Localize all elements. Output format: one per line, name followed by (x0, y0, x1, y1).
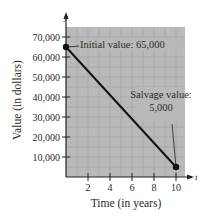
salvage-value-annotation-line1: Salvage value: (130, 89, 192, 100)
x-tick-label: 4 (108, 182, 113, 193)
x-tick-label: 2 (86, 182, 91, 193)
x-axis-label: Time (in years) (91, 197, 162, 210)
y-tick-label: 40,000 (33, 92, 61, 103)
x-axis-variable: t (195, 172, 198, 182)
y-tick-label: 20,000 (33, 132, 61, 143)
x-tick-label: 8 (152, 182, 157, 193)
y-axis-label: Value (in dollars) (11, 60, 24, 140)
x-tick-label: 10 (171, 182, 181, 193)
y-tick-label: 60,000 (33, 52, 61, 63)
depreciation-chart: 10,00020,00030,00040,00050,00060,00070,0… (0, 0, 208, 217)
y-tick-label: 10,000 (33, 152, 61, 163)
y-tick-label: 70,000 (33, 32, 61, 43)
x-tick-label: 6 (130, 182, 135, 193)
y-tick-label: 30,000 (33, 112, 61, 123)
y-axis-variable: y (63, 12, 68, 22)
initial-value-annotation: Initial value: 65,000 (80, 39, 165, 50)
y-axis-ticks: 10,00020,00030,00040,00050,00060,00070,0… (33, 32, 71, 163)
salvage-value-annotation-line2: 5,000 (149, 102, 173, 113)
y-tick-label: 50,000 (33, 72, 61, 83)
